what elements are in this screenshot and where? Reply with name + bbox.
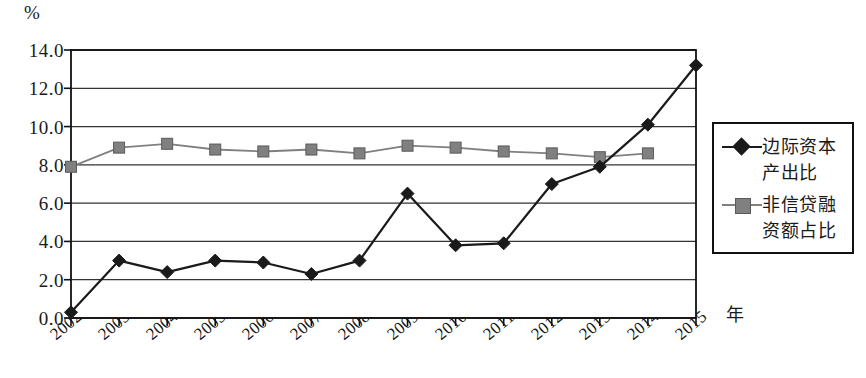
plot-background xyxy=(71,50,696,318)
data-point-marker xyxy=(114,142,125,153)
legend-label-0: 边际资本 产出比 xyxy=(762,134,836,186)
chart-legend: 边际资本 产出比 非信贷融 资额占比 xyxy=(712,122,854,254)
data-point-marker xyxy=(354,148,365,159)
data-point-marker xyxy=(498,146,509,157)
data-point-marker xyxy=(450,142,461,153)
diamond-marker-icon xyxy=(722,136,762,158)
legend-label-1: 非信贷融 资额占比 xyxy=(762,192,836,244)
chart-figure: % 年 0.02.04.06.08.010.012.014.0 20022003… xyxy=(0,0,866,378)
data-point-marker xyxy=(66,161,77,172)
data-point-marker xyxy=(642,148,653,159)
data-point-marker xyxy=(306,144,317,155)
legend-diamond-0 xyxy=(732,137,750,155)
data-point-marker xyxy=(402,140,413,151)
data-point-marker xyxy=(546,148,557,159)
data-point-marker xyxy=(210,144,221,155)
square-marker-icon xyxy=(722,194,762,216)
data-point-marker xyxy=(162,138,173,149)
legend-entry-1[interactable]: 非信贷融 资额占比 xyxy=(722,192,836,244)
legend-square-1 xyxy=(735,198,751,214)
data-point-marker xyxy=(258,146,269,157)
legend-entry-0[interactable]: 边际资本 产出比 xyxy=(722,134,836,186)
